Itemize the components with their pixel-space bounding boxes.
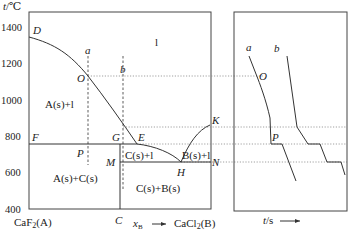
y-tick-1000: 1000 bbox=[1, 95, 22, 106]
region-label-B-plus-l: B(s)+l bbox=[182, 149, 210, 162]
time-axis-arrowhead-icon bbox=[295, 219, 300, 223]
point-label-b: b bbox=[120, 63, 126, 75]
region-label-C-plus-l: C(s)+l bbox=[125, 149, 153, 162]
y-tick-1400: 1400 bbox=[1, 22, 22, 33]
point-label-P: P bbox=[76, 147, 84, 159]
x-left-label: CaF2(A) bbox=[14, 216, 52, 230]
point-label-D: D bbox=[32, 24, 41, 36]
curve-label-a: a bbox=[246, 41, 252, 53]
x-axis-arrowhead-icon bbox=[161, 222, 166, 226]
point-label-G: G bbox=[112, 131, 120, 143]
liquidus-curve-DE bbox=[29, 37, 137, 144]
point-label-H: H bbox=[176, 166, 186, 178]
region-label-liquid: l bbox=[155, 36, 158, 48]
time-axis-label: t/s bbox=[263, 214, 273, 226]
point-label-a: a bbox=[85, 44, 91, 56]
point-label-K: K bbox=[211, 114, 220, 126]
curve-label-b: b bbox=[274, 42, 280, 54]
point-label-N: N bbox=[211, 156, 220, 168]
x-axis-label: xB bbox=[132, 217, 143, 231]
y-tick-400: 400 bbox=[5, 204, 21, 215]
region-label-A-plus-C: A(s)+C(s) bbox=[53, 172, 98, 185]
region-label-A-plus-l: A(s)+l bbox=[45, 98, 74, 111]
phase-diagram-figure: t/℃ 1400 1200 1000 800 600 400 CaF2(A) C… bbox=[0, 0, 354, 237]
x-right-label: CaCl2(B) bbox=[174, 217, 216, 231]
point-label-C: C bbox=[115, 214, 123, 226]
y-tick-1200: 1200 bbox=[1, 58, 22, 69]
point-label-E: E bbox=[137, 131, 145, 143]
curve-point-label-P: P bbox=[271, 131, 279, 143]
cooling-curve-b bbox=[287, 56, 345, 175]
y-axis-label: t/℃ bbox=[3, 0, 21, 12]
region-label-C-plus-B: C(s)+B(s) bbox=[136, 182, 180, 195]
y-tick-600: 600 bbox=[5, 167, 21, 178]
point-label-O: O bbox=[77, 72, 85, 84]
y-tick-800: 800 bbox=[5, 131, 21, 142]
point-label-F: F bbox=[31, 131, 39, 143]
point-label-M: M bbox=[105, 156, 116, 168]
curve-point-label-O: O bbox=[259, 70, 267, 82]
cooling-curve-a bbox=[249, 56, 296, 181]
